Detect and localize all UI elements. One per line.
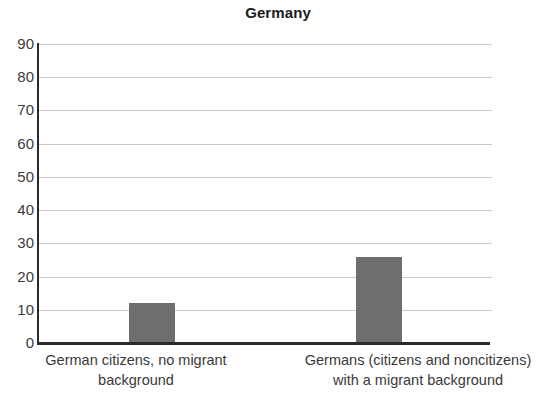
x-axis-category-label-line: with a migrant background <box>282 370 554 390</box>
gridline <box>38 210 492 211</box>
gridline <box>38 177 492 178</box>
gridline <box>38 77 492 78</box>
y-axis-tick-label: 90 <box>4 36 34 51</box>
x-axis-category-label: Germans (citizens and noncitizens) with … <box>282 350 554 390</box>
x-axis-category-label: German citizens, no migrant background <box>2 350 270 390</box>
bar-chart: Germany 0102030405060708090 German citiz… <box>0 0 556 393</box>
x-axis-category-label-line: German citizens, no migrant <box>2 350 270 370</box>
gridline <box>38 44 492 45</box>
y-axis-tick-label: 80 <box>4 69 34 84</box>
x-axis-line <box>37 342 490 345</box>
gridline <box>38 110 492 111</box>
bar <box>129 303 175 343</box>
y-axis-tick-label: 10 <box>4 302 34 317</box>
x-axis-category-label-line: background <box>2 370 270 390</box>
y-axis-tick-label: 70 <box>4 102 34 117</box>
gridline <box>38 243 492 244</box>
x-axis-category-label-line: Germans (citizens and noncitizens) <box>282 350 554 370</box>
gridline <box>38 144 492 145</box>
gridline <box>38 277 492 278</box>
y-axis-tick-label: 40 <box>4 202 34 217</box>
plot-area <box>38 44 492 343</box>
y-axis-tick-label: 20 <box>4 269 34 284</box>
y-axis-tick-labels: 0102030405060708090 <box>0 0 34 393</box>
y-axis-tick-label: 50 <box>4 169 34 184</box>
y-axis-tick-label: 30 <box>4 235 34 250</box>
y-axis-tick-label: 60 <box>4 136 34 151</box>
y-axis-tick-label: 0 <box>4 335 34 350</box>
y-axis-line <box>37 43 39 344</box>
bar <box>356 257 402 343</box>
gridline <box>38 310 492 311</box>
chart-title: Germany <box>0 4 556 21</box>
